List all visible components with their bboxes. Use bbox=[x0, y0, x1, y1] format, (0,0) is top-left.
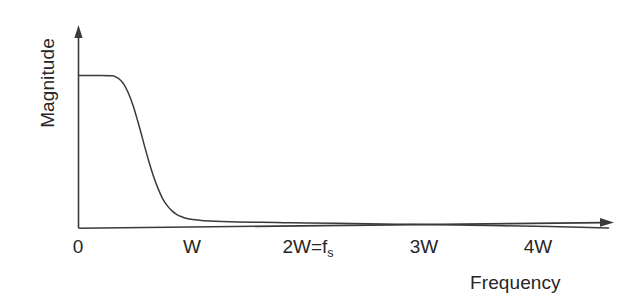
x-axis-title: Frequency bbox=[470, 272, 561, 294]
frequency-response-plot bbox=[0, 0, 627, 308]
x-tick-label-2: 2W=fs bbox=[282, 236, 333, 258]
figure-container: Magnitude Frequency 0W2W=fs3W4W bbox=[0, 0, 627, 308]
x-tick-label-3: 3W bbox=[410, 236, 439, 258]
x-tick-label-1: W bbox=[183, 236, 201, 258]
magnitude-response-curve bbox=[79, 75, 609, 228]
x-axis-arrowhead bbox=[600, 218, 614, 227]
y-axis bbox=[74, 25, 82, 228]
x-tick-label-0: 0 bbox=[73, 236, 84, 258]
x-tick-subscript-2: s bbox=[327, 246, 333, 260]
y-axis-title: Magnitude bbox=[35, 0, 61, 178]
x-tick-label-4: 4W bbox=[524, 236, 553, 258]
y-axis-arrowhead bbox=[74, 25, 82, 38]
